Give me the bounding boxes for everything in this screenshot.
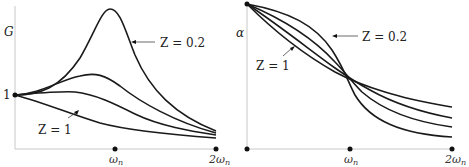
gain-curve-z-0.2 <box>15 9 216 131</box>
gain-xtick-2wn: 2ωn <box>208 153 230 166</box>
phase-label-z02: Z = 0.2 <box>362 30 407 44</box>
gain-label-z02: Z = 0.2 <box>160 36 205 50</box>
gain-wn-point <box>113 147 118 152</box>
phase-leader-z1 <box>283 48 292 56</box>
phase-axis-origin-point <box>245 147 250 152</box>
phase-xtick-2wn: 2ωn <box>444 153 466 166</box>
gain-2wn-point <box>214 147 219 152</box>
phase-xtick-wn: ωn <box>344 153 358 166</box>
gain-y-label: G <box>4 25 14 39</box>
phase-arrow-z1-icon <box>290 46 295 51</box>
gain-label-z1: Z = 1 <box>38 123 72 137</box>
figure: G 1 ωn 2ωn Z = 0.2 Z = 1 α <box>0 0 469 166</box>
phase-y-label: α <box>236 26 244 40</box>
gain-chart: G 1 ωn 2ωn Z = 0.2 Z = 1 <box>3 6 230 166</box>
gain-y-tick-1: 1 <box>3 88 11 102</box>
phase-label-z1: Z = 1 <box>256 59 290 73</box>
phase-2wn-point <box>450 147 455 152</box>
gain-xtick-wn: ωn <box>109 153 123 166</box>
gain-origin-point <box>13 93 18 98</box>
gain-arrow-z02-icon <box>131 40 136 44</box>
phase-wn-point <box>348 147 353 152</box>
phase-origin-point <box>245 2 250 7</box>
phase-arrow-z02-icon <box>332 34 337 38</box>
phase-chart: α ωn 2ωn Z = 0.2 Z = 1 <box>236 2 466 167</box>
